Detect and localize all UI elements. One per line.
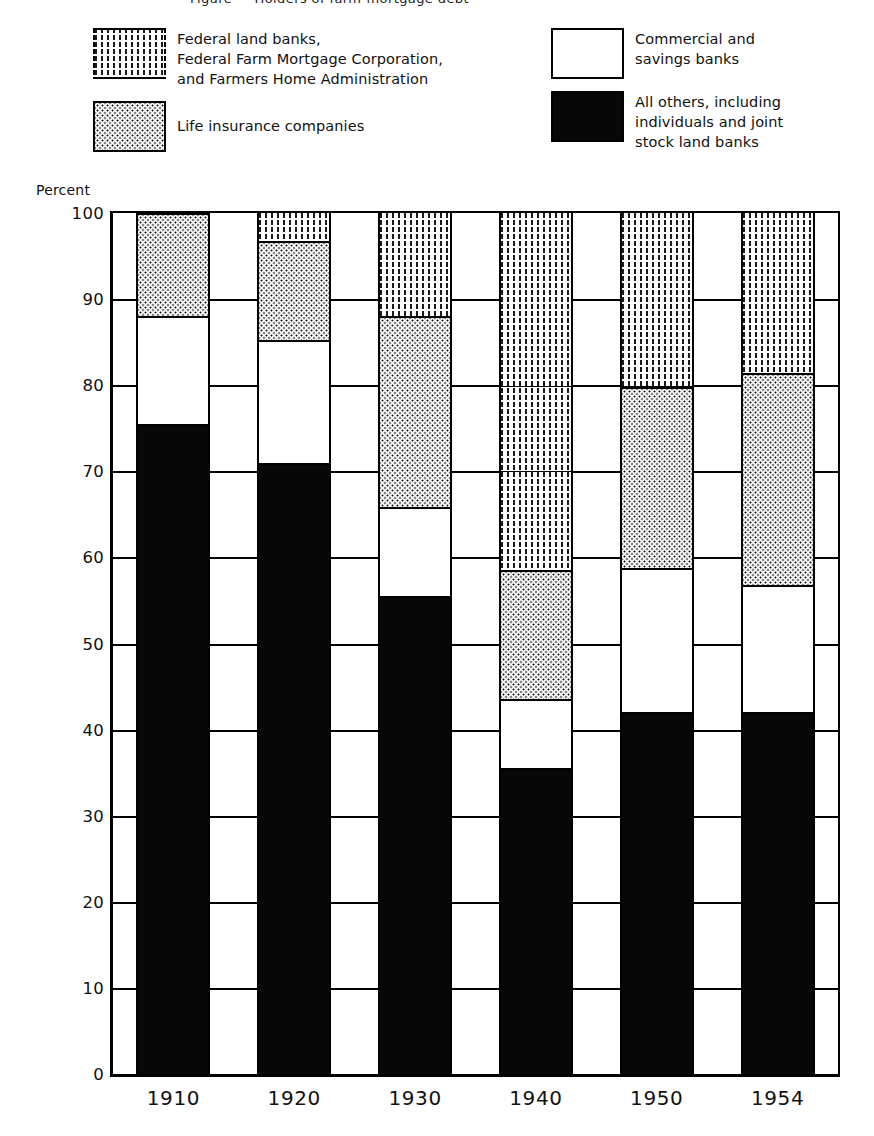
bar-segment-1930-life[interactable] xyxy=(380,316,450,507)
legend-label-life: Life insurance companies xyxy=(177,101,364,136)
bar-segment-1930-federal[interactable] xyxy=(380,213,450,316)
bar-1930[interactable] xyxy=(378,213,452,1074)
top-caption-strip: Figure — Holders of farm-mortgage debt xyxy=(0,0,874,10)
y-tick-label: 60 xyxy=(82,548,104,567)
legend-swatch-federal-icon xyxy=(93,28,166,79)
bar-segment-1950-others[interactable] xyxy=(622,712,692,1074)
legend-column-left: Federal land banks, Federal Farm Mortgag… xyxy=(93,28,443,164)
y-tick-label: 30 xyxy=(82,806,104,825)
y-tick-label: 100 xyxy=(72,204,104,223)
bar-segment-1950-life[interactable] xyxy=(622,387,692,568)
y-tick-label: 0 xyxy=(93,1065,104,1084)
y-tick-label: 80 xyxy=(82,376,104,395)
bar-segment-1954-federal[interactable] xyxy=(743,213,813,373)
legend-label-federal: Federal land banks, Federal Farm Mortgag… xyxy=(177,28,443,89)
chart-legend: Federal land banks, Federal Farm Mortgag… xyxy=(0,28,874,178)
x-tick-label: 1940 xyxy=(509,1086,562,1110)
bar-1920[interactable] xyxy=(257,213,331,1074)
bar-1954[interactable] xyxy=(741,213,815,1074)
bar-1940[interactable] xyxy=(499,213,573,1074)
y-tick-label: 70 xyxy=(82,462,104,481)
y-tick-label: 10 xyxy=(82,978,104,997)
legend-column-right: Commercial and savings banks All others,… xyxy=(551,28,783,164)
x-tick-label: 1954 xyxy=(751,1086,804,1110)
legend-item-others: All others, including individuals and jo… xyxy=(551,91,783,152)
bar-segment-1940-banks[interactable] xyxy=(501,699,571,768)
bar-segment-1950-federal[interactable] xyxy=(622,213,692,387)
bar-segment-1940-federal[interactable] xyxy=(501,213,571,570)
x-tick-label: 1930 xyxy=(388,1086,441,1110)
bar-1910[interactable] xyxy=(136,213,210,1074)
bar-segment-1950-banks[interactable] xyxy=(622,568,692,713)
bar-segment-1954-others[interactable] xyxy=(743,712,813,1074)
x-tick-label: 1910 xyxy=(147,1086,200,1110)
bar-segment-1930-others[interactable] xyxy=(380,596,450,1074)
bar-segment-1954-banks[interactable] xyxy=(743,585,813,712)
bar-segment-1910-life[interactable] xyxy=(138,213,208,316)
x-tick-label: 1920 xyxy=(268,1086,321,1110)
y-tick-label: 40 xyxy=(82,720,104,739)
bar-segment-1920-life[interactable] xyxy=(259,241,329,341)
bar-segment-1920-others[interactable] xyxy=(259,463,329,1074)
x-tick-label: 1950 xyxy=(630,1086,683,1110)
legend-label-others: All others, including individuals and jo… xyxy=(635,91,783,152)
bar-segment-1910-banks[interactable] xyxy=(138,316,208,424)
bar-segment-1920-federal[interactable] xyxy=(259,213,329,241)
chart-axes: 0102030405060708090100 19101920193019401… xyxy=(110,211,840,1077)
bar-segment-1940-life[interactable] xyxy=(501,570,571,699)
legend-item-life: Life insurance companies xyxy=(93,101,443,152)
legend-item-federal: Federal land banks, Federal Farm Mortgag… xyxy=(93,28,443,89)
bar-segment-1930-banks[interactable] xyxy=(380,507,450,596)
y-tick-label: 20 xyxy=(82,892,104,911)
bar-segment-1920-banks[interactable] xyxy=(259,340,329,462)
figure-caption: Figure — Holders of farm-mortgage debt xyxy=(190,0,469,6)
bar-series-container xyxy=(113,213,838,1074)
legend-item-banks: Commercial and savings banks xyxy=(551,28,783,79)
bar-1950[interactable] xyxy=(620,213,694,1074)
legend-swatch-banks-icon xyxy=(551,28,624,79)
chart-plot-area: Percent 0102030405060708090100 191019201… xyxy=(0,180,874,1136)
bar-segment-1910-others[interactable] xyxy=(138,424,208,1074)
y-tick-label: 90 xyxy=(82,290,104,309)
y-tick-label: 50 xyxy=(82,634,104,653)
legend-swatch-others-icon xyxy=(551,91,624,142)
legend-swatch-life-icon xyxy=(93,101,166,152)
legend-label-banks: Commercial and savings banks xyxy=(635,28,755,69)
y-axis-title: Percent xyxy=(36,182,90,198)
bar-segment-1940-others[interactable] xyxy=(501,768,571,1074)
bar-segment-1954-life[interactable] xyxy=(743,373,813,585)
